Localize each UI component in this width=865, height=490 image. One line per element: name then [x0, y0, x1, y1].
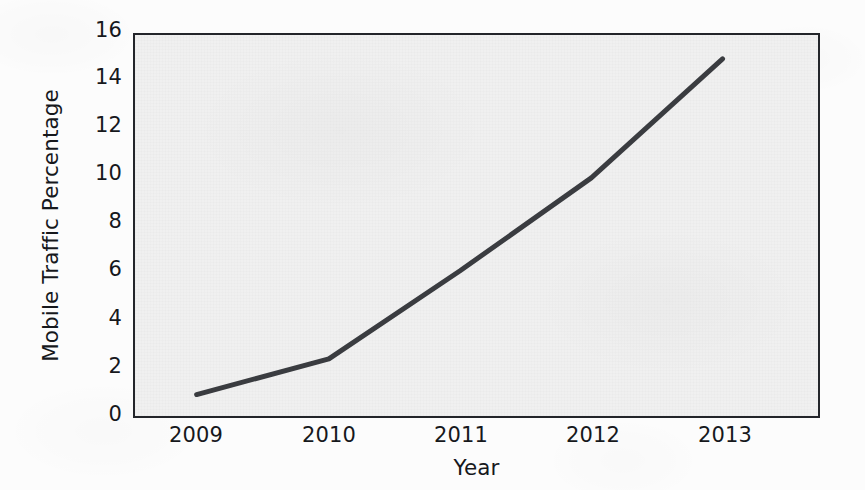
xtick-label-2012: 2012 [533, 423, 653, 447]
plot-area [133, 33, 820, 418]
data-line-mobile-traffic [197, 59, 723, 395]
ytick-label-8: 8 [62, 209, 122, 233]
data-series-svg [135, 35, 818, 416]
ytick-label-2: 2 [62, 354, 122, 378]
ytick-label-10: 10 [62, 161, 122, 185]
x-axis-title: Year [133, 455, 820, 480]
xtick-label-2009: 2009 [136, 423, 256, 447]
xtick-label-2010: 2010 [269, 423, 389, 447]
ytick-label-16: 16 [62, 18, 122, 42]
ytick-label-14: 14 [62, 65, 122, 89]
ytick-label-12: 12 [62, 113, 122, 137]
ytick-label-0: 0 [62, 402, 122, 426]
xtick-label-2011: 2011 [401, 423, 521, 447]
xtick-label-2013: 2013 [665, 423, 785, 447]
y-axis-title: Mobile Traffic Percentage [34, 33, 68, 418]
ytick-label-6: 6 [62, 257, 122, 281]
chart-figure: 0 2 4 6 8 10 12 14 16 2009 2010 2011 201… [0, 0, 865, 490]
ytick-label-4: 4 [62, 306, 122, 330]
